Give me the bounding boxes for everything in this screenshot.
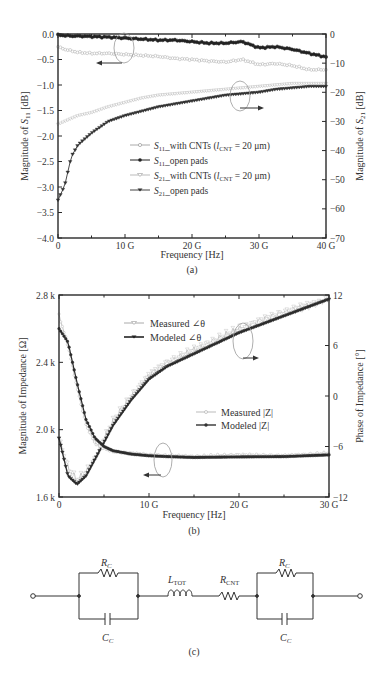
resistor-rc-right-icon <box>276 569 296 577</box>
legend-item-modeled-phase: Modeled ∠θ <box>124 332 201 343</box>
svg-text:S11_with CNTs (lCNT = 20 μm): S11_with CNTs (lCNT = 20 μm) <box>154 141 270 152</box>
output-terminal-icon <box>358 594 363 599</box>
inductor-ltot-icon <box>168 590 192 596</box>
x-tick-label: 0 <box>56 241 61 251</box>
chart-s-parameters: 010 G20 G30 G40 G0.0−0.5−1.0−1.5−2.0−2.5… <box>19 30 367 277</box>
y-tick-label-right: −40 <box>330 146 345 156</box>
panel-label-c: (c) <box>188 646 199 658</box>
legend-item-modeled-magnitude: Modeled |Z| <box>196 420 269 431</box>
arrow-head-icon <box>96 61 102 66</box>
x-tick-label: 0 <box>57 500 62 510</box>
open-circle-marker-icon <box>205 411 208 414</box>
legend-item-s11-cnt: S11_with CNTs (lCNT = 20 μm) <box>130 141 270 152</box>
label-cc-left: CC <box>102 632 114 645</box>
input-terminal-icon <box>31 594 36 599</box>
legend-item-s21-open: S21_open pads <box>130 186 209 197</box>
figure: 010 G20 G30 G40 G0.0−0.5−1.0−1.5−2.0−2.5… <box>0 0 383 677</box>
y-tick-label-right: 6 <box>333 341 338 351</box>
x-axis-label-a: Frequency [Hz] <box>160 249 223 260</box>
y-tick-label-right: −12 <box>333 493 348 503</box>
label-rc-right: RC <box>278 557 290 570</box>
y-tick-label-right: −6 <box>333 442 343 452</box>
y-axis-label-right-a: Magnitude of S21 [dB] <box>354 91 367 181</box>
y-tick-label-left: −1.5 <box>37 106 54 116</box>
resistor-rcnt-icon <box>219 592 239 600</box>
y-tick-label-right: −70 <box>330 234 345 244</box>
y-tick-label-left: −2.0 <box>37 132 54 142</box>
y-tick-label-right: 12 <box>333 291 343 301</box>
panel-label-b: (b) <box>188 525 200 537</box>
panel-label-a: (a) <box>186 264 197 276</box>
y-tick-label-left: −3.5 <box>37 208 54 218</box>
legend-item-measured-phase: Measured ∠θ <box>124 318 205 329</box>
chart-impedance: 010 G20 G30 G2.8 k2.4 k2.0 k1.6 k1260−6−… <box>17 291 365 538</box>
open-circle-marker-icon <box>138 143 141 146</box>
y-tick-label-left: 0.0 <box>42 30 54 40</box>
legend-b-magnitude: Measured |Z| Modeled |Z| <box>196 407 273 431</box>
label-cc-right: CC <box>280 632 292 645</box>
y-tick-label-left: 2.0 k <box>36 425 55 435</box>
y-tick-label-right: −10 <box>330 59 345 69</box>
x-tick-label: 10 G <box>116 241 135 251</box>
y-tick-label-right: 0 <box>330 30 335 40</box>
y-axis-label-left-a: Magnitude of S11 [dB] <box>19 91 32 180</box>
legend-label: Modeled ∠θ <box>150 332 201 343</box>
legend-item-measured-magnitude: Measured |Z| <box>196 407 273 418</box>
arrow-head-icon <box>143 473 149 478</box>
y-tick-label-left: −0.5 <box>37 55 54 65</box>
x-tick-label: 20 G <box>230 500 249 510</box>
legend-label: Measured |Z| <box>221 407 273 418</box>
y-tick-label-left: −4.0 <box>37 234 54 244</box>
y-axis-label-left-b: Magnitude of Impedance [Ω] <box>17 337 28 454</box>
x-tick-label: 30 G <box>250 241 269 251</box>
arrow-head-icon <box>258 106 264 111</box>
label-rcnt: RCNT <box>219 574 239 586</box>
svg-text:S21_with CNTs (lCNT = 20 μm): S21_with CNTs (lCNT = 20 μm) <box>154 171 270 182</box>
svg-text:S11_open pads: S11_open pads <box>154 156 208 167</box>
filled-circle-marker-icon <box>138 158 142 162</box>
magnitude-group-ellipse <box>154 443 172 477</box>
y-tick-label-right: −30 <box>330 117 345 127</box>
y-tick-label-right: −50 <box>330 175 345 185</box>
y-tick-label-right: 0 <box>333 392 338 402</box>
svg-text:S21_open pads: S21_open pads <box>154 186 209 197</box>
legend-item-s21-cnt: S21_with CNTs (lCNT = 20 μm) <box>130 171 270 182</box>
y-tick-label-left: 2.8 k <box>36 291 55 301</box>
y-tick-label-left: 1.6 k <box>36 493 55 503</box>
y-tick-label-left: 2.4 k <box>36 358 55 368</box>
legend-item-s11-open: S11_open pads <box>130 156 208 167</box>
legend-label: Measured ∠θ <box>150 318 205 329</box>
x-tick-label: 10 G <box>140 500 159 510</box>
legend-b-phase: Measured ∠θ Modeled ∠θ <box>124 318 205 343</box>
y-axis-label-right-b: Phase of Impedance [°] <box>354 349 365 443</box>
arrow-head-icon <box>253 356 259 361</box>
y-tick-label-left: −2.5 <box>37 157 54 167</box>
label-rc-left: RC <box>100 557 112 570</box>
legend-a: S11_with CNTs (lCNT = 20 μm) S11_open pa… <box>130 141 270 197</box>
y-tick-label-right: −60 <box>330 204 345 214</box>
s21-group-ellipse <box>230 81 250 111</box>
y-tick-label-left: −3.0 <box>37 183 54 193</box>
filled-circle-marker-icon <box>204 423 207 426</box>
resistor-rc-left-icon <box>98 569 118 577</box>
equivalent-circuit: RC CC LTOT RCNT RC CC (c) <box>31 557 363 658</box>
y-tick-label-right: −20 <box>330 88 345 98</box>
y-tick-label-left: −1.0 <box>37 81 54 91</box>
legend-label: Modeled |Z| <box>221 420 269 431</box>
label-ltot: LTOT <box>167 574 186 586</box>
x-axis-label-b: Frequency [Hz] <box>162 509 225 520</box>
